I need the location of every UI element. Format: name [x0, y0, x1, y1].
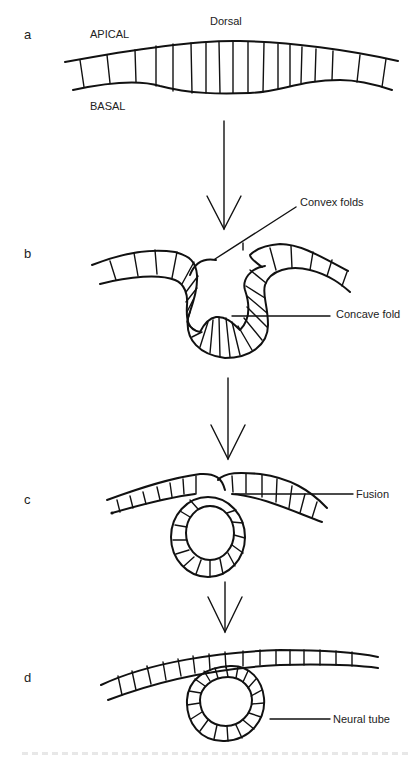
neural-fold-fusion-c — [107, 473, 353, 577]
arrow-c-to-d-icon — [208, 582, 242, 632]
arrow-b-to-c-icon — [211, 378, 245, 459]
neural-plate-a — [65, 41, 398, 94]
diagram-canvas — [0, 0, 420, 762]
neural-tube-d — [101, 650, 378, 741]
arrow-a-to-b-icon — [207, 121, 241, 229]
faint-caption-bleed — [22, 752, 412, 755]
neural-groove-b — [92, 207, 350, 358]
